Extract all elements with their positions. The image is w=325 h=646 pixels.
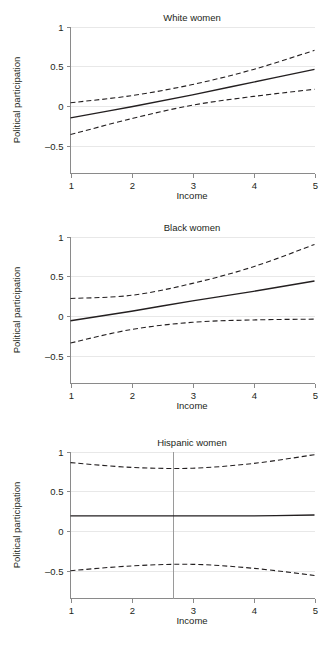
x-axis-title: Income	[176, 190, 207, 201]
x-tick-marks	[72, 599, 316, 603]
x-tick-label: 3	[191, 390, 196, 401]
panel-title: White women	[163, 12, 221, 23]
x-tick-label: 5	[313, 605, 318, 616]
y-tick-label: 0.5	[50, 271, 63, 282]
data-lines-black-women	[71, 244, 315, 343]
y-tick-label: 0	[58, 526, 63, 537]
x-tick-label: 3	[191, 605, 196, 616]
x-tick-marks	[72, 384, 316, 388]
panel-title: Hispanic women	[157, 437, 227, 448]
chart-svg-black-women: –0.500.51 12345 Black women Income Polit…	[0, 210, 325, 425]
x-tick-label: 2	[130, 605, 135, 616]
x-tick-label: 1	[69, 390, 74, 401]
confidence-bound-line	[71, 244, 315, 298]
x-tick-labels: 12345	[69, 390, 318, 401]
panel-title: Black women	[164, 222, 221, 233]
data-lines-white-women	[71, 50, 315, 134]
chart-svg-white-women: –0.500.51 12345 White women Income Polit…	[0, 0, 325, 215]
x-tick-label: 1	[69, 605, 74, 616]
y-tick-marks	[67, 453, 71, 572]
x-tick-label: 2	[130, 390, 135, 401]
y-axis-title: Political participation	[11, 267, 22, 354]
chart-panel-white-women: –0.500.51 12345 White women Income Polit…	[0, 0, 325, 215]
y-tick-label: 0	[58, 311, 63, 322]
figure-political-participation-by-income: –0.500.51 12345 White women Income Polit…	[0, 0, 325, 646]
fit-line	[71, 281, 315, 321]
x-tick-label: 5	[313, 390, 318, 401]
x-tick-label: 5	[313, 180, 318, 191]
y-tick-label: 0	[58, 101, 63, 112]
y-tick-label: 1	[58, 232, 63, 243]
y-tick-label: –0.5	[45, 351, 64, 362]
x-tick-label: 4	[252, 605, 257, 616]
confidence-bound-line	[71, 455, 315, 469]
y-tick-labels: –0.500.51	[45, 447, 64, 577]
x-tick-marks	[72, 174, 316, 178]
gridlines-white-women	[71, 28, 315, 147]
y-tick-label: –0.5	[45, 141, 64, 152]
y-tick-label: 0.5	[50, 61, 63, 72]
y-axis-title: Political participation	[11, 482, 22, 569]
x-tick-label: 4	[252, 180, 257, 191]
y-tick-labels: –0.500.51	[45, 232, 64, 362]
y-tick-label: 0.5	[50, 486, 63, 497]
x-tick-label: 4	[252, 390, 257, 401]
y-tick-labels: –0.500.51	[45, 22, 64, 152]
x-tick-label: 1	[69, 180, 74, 191]
y-tick-label: 1	[58, 22, 63, 33]
y-tick-label: 1	[58, 447, 63, 458]
x-tick-labels: 12345	[69, 605, 318, 616]
y-tick-marks	[67, 238, 71, 357]
y-tick-label: –0.5	[45, 566, 64, 577]
x-axis-title: Income	[176, 400, 207, 411]
confidence-bound-line	[71, 319, 315, 343]
fit-line	[71, 515, 315, 516]
y-tick-marks	[67, 28, 71, 147]
x-axis-title: Income	[176, 615, 207, 626]
gridlines-hispanic-women	[71, 453, 315, 572]
confidence-bound-line	[71, 564, 315, 575]
y-axis-title: Political participation	[11, 57, 22, 144]
chart-panel-hispanic-women: –0.500.51 12345 Hispanic women Income Po…	[0, 425, 325, 640]
x-tick-label: 3	[191, 180, 196, 191]
data-lines-hispanic-women	[71, 455, 315, 576]
chart-svg-hispanic-women: –0.500.51 12345 Hispanic women Income Po…	[0, 425, 325, 646]
x-tick-labels: 12345	[69, 180, 318, 191]
x-tick-label: 2	[130, 180, 135, 191]
chart-panel-black-women: –0.500.51 12345 Black women Income Polit…	[0, 210, 325, 425]
